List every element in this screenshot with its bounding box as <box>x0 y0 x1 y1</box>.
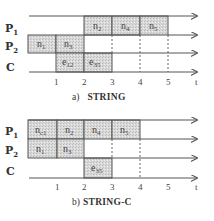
row-label-c: C <box>6 61 15 74</box>
tick-5: 5 <box>166 77 171 87</box>
axis-label-t: t <box>195 182 198 192</box>
tick-5: 5 <box>166 182 171 192</box>
tick-1: 1 <box>55 182 60 192</box>
tick-2: 2 <box>82 77 87 87</box>
caption-b: b)STRING-C <box>72 197 132 208</box>
panel-a-string: P1 P2 C n2 n4 n5 n1 n3 e12 e35 1 2 3 4 <box>5 16 198 103</box>
row-label-p1: P1 <box>5 22 18 37</box>
tick-3: 3 <box>110 77 115 87</box>
tick-3: 3 <box>110 182 115 192</box>
tick-4: 4 <box>138 182 143 192</box>
tick-4: 4 <box>138 77 143 87</box>
panel-b-string-c: P1 P2 C nc1 n2 n4 n5 n1 n3 e35 1 2 3 4 5… <box>5 120 198 208</box>
tick-2: 2 <box>82 182 87 192</box>
row-label-c: C <box>6 165 15 178</box>
caption-a: a)STRING <box>72 92 126 103</box>
tick-1: 1 <box>54 77 59 87</box>
schedule-diagram: P1 P2 C n2 n4 n5 n1 n3 e12 e35 1 2 3 4 <box>0 0 214 221</box>
row-label-p2: P2 <box>5 144 18 159</box>
row-label-p1: P1 <box>5 125 18 140</box>
axis-label-t: t <box>195 77 198 87</box>
row-label-p2: P2 <box>5 40 18 55</box>
